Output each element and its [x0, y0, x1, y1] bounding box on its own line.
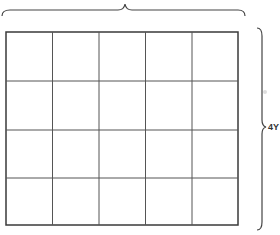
grid-outline [6, 32, 238, 225]
grid-columns [53, 32, 193, 225]
grid-rows [6, 81, 238, 178]
grid-diagram [0, 0, 280, 235]
right-brace [257, 28, 266, 230]
top-brace [2, 4, 245, 16]
right-brace-label: 4Y [268, 122, 279, 132]
faint-dot [263, 90, 267, 94]
